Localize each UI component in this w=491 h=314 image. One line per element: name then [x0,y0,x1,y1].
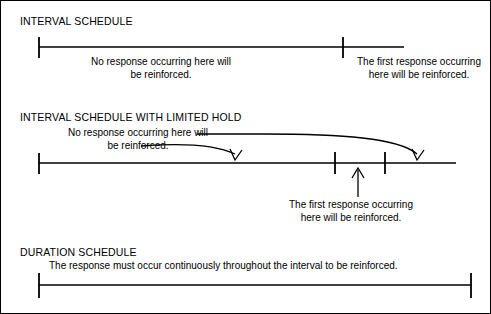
timelines-layer [1,1,491,314]
timeline-duration-schedule [39,273,471,298]
arrow-short-curve-to-no-response-zone [141,145,242,160]
schedule-diagram-figure: INTERVAL SCHEDULE INTERVAL SCHEDULE WITH… [0,0,491,314]
arrow-long-curve-to-limited-hold-zone [197,134,424,160]
timeline-interval-schedule-with-limited-hold [39,152,456,174]
arrow-up-to-first-response [352,168,364,197]
timeline-interval-schedule [39,37,404,58]
